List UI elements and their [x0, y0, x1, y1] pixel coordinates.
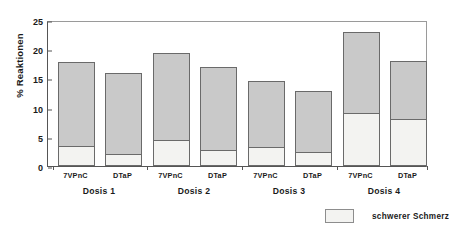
bar-dosis1-7vpnc — [58, 62, 95, 166]
bar-dosis3-7vpnc — [248, 81, 285, 166]
bar-severe-segment — [201, 150, 236, 165]
x-label-dosis2-7vpnc: 7VPnC — [158, 171, 183, 180]
x-group-label-dosis3: Dosis 3 — [273, 186, 306, 196]
x-label-dosis1-7vpnc: 7VPnC — [63, 171, 88, 180]
bar-dosis4-7vpnc — [343, 32, 380, 166]
y-tick-mark-25 — [48, 22, 52, 23]
y-tick-label-5: 5 — [38, 134, 48, 144]
bar-severe-segment — [344, 113, 379, 165]
x-tick-mark — [242, 166, 243, 170]
y-tick-mark-15 — [48, 80, 52, 81]
bar-severe-segment — [296, 152, 331, 165]
y-axis-title: % Reaktionen — [14, 6, 25, 126]
plot-area: 0 5 10 15 20 25 — [47, 21, 427, 167]
y-tick-mark-10 — [48, 109, 52, 110]
x-group-label-dosis1: Dosis 1 — [83, 186, 116, 196]
x-label-dosis4-dtap: DTaP — [398, 171, 417, 180]
x-label-dosis3-7vpnc: 7VPnC — [253, 171, 278, 180]
y-tick-mark-20 — [48, 51, 52, 52]
bar-severe-segment — [154, 140, 189, 165]
x-group-label-dosis2: Dosis 2 — [178, 186, 211, 196]
y-tick-label-15: 15 — [33, 75, 48, 85]
bar-severe-segment — [59, 146, 94, 165]
bar-dosis4-dtap — [390, 61, 427, 166]
y-tick-mark-0 — [48, 168, 52, 169]
chart-legend: schwerer Schmerz — [325, 209, 449, 223]
bar-dosis2-dtap — [200, 67, 237, 166]
x-label-dosis2-dtap: DTaP — [208, 171, 227, 180]
x-tick-mark — [427, 166, 428, 170]
x-tick-mark — [147, 166, 148, 170]
legend-label-schwerer-schmerz: schwerer Schmerz — [372, 212, 449, 221]
x-tick-mark — [337, 166, 338, 170]
x-tick-mark — [53, 166, 54, 170]
y-tick-mark-5 — [48, 138, 52, 139]
bar-severe-segment — [391, 119, 426, 165]
y-tick-label-20: 20 — [33, 46, 48, 56]
bar-severe-segment — [106, 154, 141, 165]
y-tick-label-10: 10 — [33, 105, 48, 115]
bar-dosis3-dtap — [295, 91, 332, 166]
x-label-dosis3-dtap: DTaP — [303, 171, 322, 180]
bar-dosis1-dtap — [105, 73, 142, 166]
x-group-label-dosis4: Dosis 4 — [368, 186, 401, 196]
x-label-dosis1-dtap: DTaP — [113, 171, 132, 180]
bar-dosis2-7vpnc — [153, 53, 190, 166]
y-tick-label-0: 0 — [38, 163, 48, 173]
bar-severe-segment — [249, 147, 284, 165]
y-tick-label-25: 25 — [33, 17, 48, 27]
legend-swatch-schwerer-schmerz — [325, 209, 354, 223]
x-label-dosis4-7vpnc: 7VPnC — [348, 171, 373, 180]
